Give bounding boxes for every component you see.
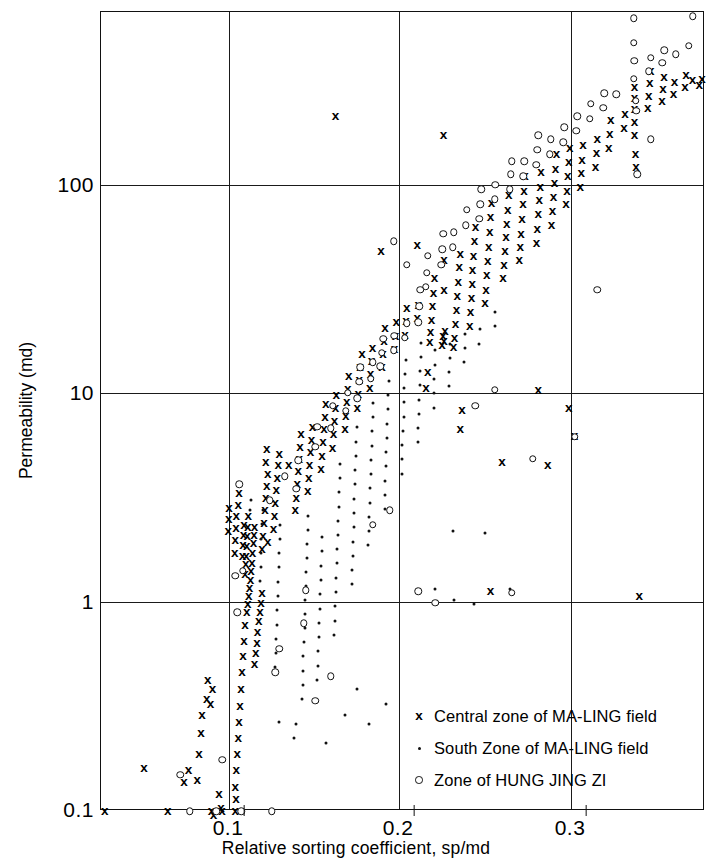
data-point-dot <box>306 542 309 545</box>
data-point-x: x <box>535 383 543 397</box>
data-point-dot <box>368 516 371 519</box>
data-point-x: x <box>482 283 490 297</box>
data-point-x: x <box>233 747 241 761</box>
data-point-x: x <box>698 72 706 86</box>
data-point-dot <box>277 566 280 569</box>
data-point-x: x <box>209 682 217 696</box>
data-point-circle <box>275 645 283 653</box>
data-point-dot <box>403 401 406 404</box>
data-point-dot <box>478 328 481 331</box>
data-point-dot <box>321 536 324 539</box>
data-point-x: x <box>232 521 240 535</box>
data-point-dot <box>306 529 309 532</box>
data-point-circle <box>423 269 431 277</box>
data-point-circle <box>547 135 555 143</box>
data-point-x: x <box>451 331 459 345</box>
data-point-dot <box>463 332 466 335</box>
data-point-circle <box>571 433 579 441</box>
data-point-circle <box>672 51 680 59</box>
data-point-dot <box>400 472 403 475</box>
chart-root: 100 10 1 0.1 xxxxxxxxxxxxxxxxxxxxxxxxxxx… <box>0 0 712 862</box>
data-point-dot <box>353 483 356 486</box>
data-point-dot <box>301 697 304 700</box>
data-point-circle <box>507 171 515 179</box>
data-point-circle <box>491 195 499 203</box>
data-point-x: x <box>275 447 283 461</box>
data-point-circle <box>232 572 240 580</box>
data-point-dot <box>259 566 262 569</box>
data-point-circle <box>235 481 243 489</box>
data-point-x: x <box>468 291 476 305</box>
data-point-dot <box>384 465 387 468</box>
data-point-circle <box>508 589 516 597</box>
data-point-dot <box>318 607 321 610</box>
data-point-x: x <box>237 682 245 696</box>
data-point-circle <box>660 46 668 54</box>
data-point-dot <box>463 361 466 364</box>
data-point-circle <box>312 443 320 451</box>
data-point-dot <box>418 398 421 401</box>
data-point-x: x <box>197 726 205 740</box>
data-point-dot <box>261 523 264 526</box>
data-point-dot <box>248 509 251 512</box>
data-point-dot <box>386 422 389 425</box>
data-point-dot <box>334 605 337 608</box>
data-point-dot <box>387 379 390 382</box>
data-point-circle <box>293 485 301 493</box>
data-point-dot <box>370 458 373 461</box>
gridline-y-10 <box>101 393 703 394</box>
data-point-x: x <box>428 314 436 328</box>
data-point-x: x <box>594 132 602 146</box>
data-point-dot <box>448 356 451 359</box>
data-point-dot <box>343 714 346 717</box>
data-point-circle <box>508 157 516 165</box>
data-point-dot <box>317 635 320 638</box>
data-point-circle <box>239 567 247 575</box>
data-point-x: x <box>620 122 628 136</box>
data-point-circle <box>437 261 445 269</box>
data-point-circle <box>630 57 638 65</box>
x-marker-icon: x <box>404 707 434 725</box>
data-point-x: x <box>296 440 304 454</box>
data-point-x: x <box>486 225 494 239</box>
data-point-dot <box>403 387 406 390</box>
data-point-x: x <box>306 459 314 473</box>
data-point-dot <box>351 554 354 557</box>
data-point-dot <box>433 377 436 380</box>
data-point-x: x <box>234 498 242 512</box>
data-point-dot <box>403 372 406 375</box>
data-point-dot <box>353 497 356 500</box>
data-point-circle <box>613 90 621 98</box>
data-point-x: x <box>579 138 587 152</box>
data-point-dot <box>275 623 278 626</box>
data-point-dot <box>387 394 390 397</box>
data-point-circle <box>599 104 607 112</box>
data-point-x: x <box>225 524 233 538</box>
data-point-x: x <box>195 747 203 761</box>
data-point-x: x <box>516 240 524 254</box>
data-point-dot <box>372 401 375 404</box>
data-point-dot <box>259 580 262 583</box>
data-point-dot <box>367 544 370 547</box>
data-point-dot <box>336 534 339 537</box>
data-point-circle <box>438 245 446 253</box>
data-point-x: x <box>318 449 326 463</box>
data-point-circle <box>414 588 422 596</box>
data-point-x: x <box>414 238 422 252</box>
legend-label: Central zone of MA-LING field <box>434 707 657 726</box>
data-point-circle <box>390 347 398 355</box>
data-point-circle <box>587 100 595 108</box>
data-point-dot <box>320 550 323 553</box>
legend-item: South Zone of MA-LING field <box>404 732 704 764</box>
data-point-x: x <box>681 80 689 94</box>
data-point-x: x <box>393 315 401 329</box>
data-point-x: x <box>292 504 300 518</box>
data-point-dot <box>334 619 337 622</box>
data-point-circle <box>574 113 582 121</box>
data-point-circle <box>376 362 384 370</box>
data-point-x: x <box>215 787 223 801</box>
data-point-x: x <box>517 227 525 241</box>
data-point-dot <box>319 579 322 582</box>
data-point-x: x <box>424 365 432 379</box>
data-point-circle <box>422 283 430 291</box>
